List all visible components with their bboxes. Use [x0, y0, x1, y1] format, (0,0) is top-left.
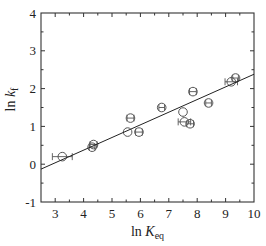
- data-point: [179, 108, 188, 117]
- data-point: [189, 87, 198, 96]
- x-tick-label: 10: [248, 206, 261, 221]
- scatter-chart: 345678910-101234 ln Keqln kf: [0, 0, 266, 246]
- y-tick-label: 4: [30, 6, 37, 21]
- x-axis-label: ln Keq: [131, 224, 164, 241]
- plot-frame: [41, 13, 254, 202]
- y-tick-label: 0: [30, 157, 37, 172]
- x-tick-label: 4: [80, 206, 87, 221]
- regression-line: [41, 74, 254, 169]
- x-tick-label: 8: [194, 206, 201, 221]
- x-tick-label: 5: [109, 206, 116, 221]
- circle-marker: [179, 108, 188, 117]
- plot-area: [41, 13, 254, 202]
- y-tick-label: 2: [30, 81, 37, 96]
- x-tick-label: 3: [52, 206, 59, 221]
- data-point: [178, 118, 190, 127]
- y-tick-label: -1: [25, 195, 36, 210]
- y-tick-label: 1: [30, 119, 37, 134]
- x-tick-label: 7: [166, 206, 173, 221]
- data-point: [186, 119, 195, 128]
- data-point: [135, 128, 144, 137]
- y-axis-label: ln kf: [3, 87, 20, 112]
- data-point: [126, 114, 135, 123]
- data-points: [52, 74, 239, 161]
- axis-ticks: 345678910-101234: [25, 6, 260, 222]
- x-tick-label: 6: [137, 206, 144, 221]
- y-tick-label: 3: [30, 43, 37, 58]
- x-tick-label: 9: [222, 206, 229, 221]
- data-point: [204, 99, 213, 108]
- data-point: [157, 103, 166, 112]
- fit-line: [41, 74, 254, 169]
